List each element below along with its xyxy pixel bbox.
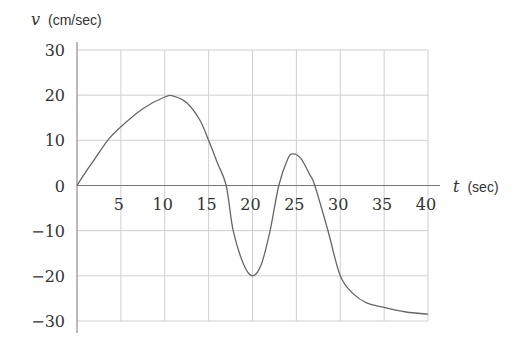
y-tick-label: −20 [31, 267, 65, 286]
y-tick-label: 30 [45, 41, 65, 60]
y-tick-label: −10 [31, 222, 65, 241]
x-tick-label: 30 [328, 195, 348, 214]
y-tick-label: −30 [31, 312, 65, 331]
x-tick-label: 10 [153, 195, 173, 214]
y-tick-label: 20 [45, 86, 65, 105]
y-tick-labels: 3020100−10−20−30 [31, 41, 65, 331]
x-tick-label: 25 [284, 195, 304, 214]
velocity-time-chart: 510152025303540 3020100−10−20−30 v (cm/s… [0, 0, 527, 347]
x-tick-label: 5 [114, 195, 124, 214]
axes [77, 42, 440, 333]
y-axis-label: v (cm/sec) [31, 10, 102, 29]
x-tick-label: 15 [196, 195, 216, 214]
y-axis-unit: (cm/sec) [48, 12, 102, 28]
x-tick-label: 20 [240, 195, 260, 214]
x-tick-label: 35 [372, 195, 392, 214]
x-axis-label: t (sec) [453, 177, 499, 196]
x-tick-label: 40 [416, 195, 436, 214]
x-axis-unit: (sec) [467, 179, 498, 195]
y-tick-label: 0 [55, 177, 65, 196]
x-axis-variable: t [453, 177, 460, 196]
y-tick-label: 10 [45, 131, 65, 150]
y-axis-variable: v [31, 10, 40, 29]
